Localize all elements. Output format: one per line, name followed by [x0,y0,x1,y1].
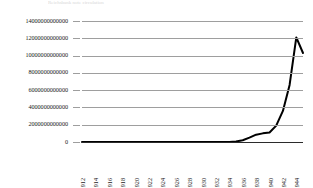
plot-area: 1400000000000012000000000000100000000000… [82,21,303,142]
x-axis-tick-label: 1918 [119,178,127,188]
x-axis-tick-label: 1944 [293,178,301,188]
x-axis-tick-label: 1934 [226,178,234,188]
gridline-2000000000000 [82,125,303,126]
y-axis-tick-label: 10000000000000 [25,52,68,58]
y-axis-tick-label: 12000000000000 [25,35,68,41]
x-axis-tick-label: 1940 [267,178,275,188]
y-axis-tick-mark [73,73,80,74]
y-axis-tick-mark [73,142,80,143]
gridline-12000000000000 [82,38,303,39]
chart-container: Reichsbank note circulation 140000000000… [0,0,313,188]
gridline-6000000000000 [82,90,303,91]
chart-title-clipped: Reichsbank note circulation [48,0,198,6]
y-axis-tick-mark [73,125,80,126]
y-axis-tick-mark [73,38,80,39]
x-axis-tick-label: 1924 [159,178,167,188]
x-axis-tick-label: 1922 [146,178,154,188]
y-axis-tick-mark [73,107,80,108]
x-axis-labels: 1912191419161918192019221924192619281930… [82,145,303,188]
y-axis-tick-label: 4000000000000 [28,104,68,110]
y-axis-tick-label: 0 [65,139,68,145]
gridline-0 [82,142,303,143]
gridline-4000000000000 [82,107,303,108]
x-axis-tick-label: 1916 [106,178,114,188]
x-axis-tick-label: 1932 [213,178,221,188]
x-axis-tick-label: 1930 [200,178,208,188]
y-axis-tick-mark [73,56,80,57]
x-axis-tick-label: 1936 [240,178,248,188]
gridline-14000000000000 [82,21,303,22]
gridline-8000000000000 [82,73,303,74]
x-axis-tick-label: 1938 [253,178,261,188]
y-axis-tick-label: 14000000000000 [25,18,68,24]
y-axis-tick-mark [73,90,80,91]
y-axis-tick-mark [73,21,80,22]
x-axis-tick-label: 1914 [92,178,100,188]
y-axis-tick-label: 6000000000000 [28,87,68,93]
y-axis-tick-label: 8000000000000 [28,69,68,75]
x-axis-tick-label: 1942 [280,178,288,188]
x-axis-tick-label: 1926 [173,178,181,188]
y-axis-tick-label: 2000000000000 [28,121,68,127]
x-axis-tick-label: 1920 [133,178,141,188]
x-axis-tick-label: 1912 [79,178,87,188]
x-axis-tick-label: 1928 [186,178,194,188]
gridline-10000000000000 [82,56,303,57]
